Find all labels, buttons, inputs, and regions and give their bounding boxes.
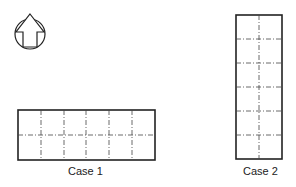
diagram-canvas [0, 0, 296, 187]
case2-label: Case 2 [243, 165, 278, 177]
north-arrow-icon [15, 14, 45, 49]
case2-plan [236, 15, 282, 159]
case1-label: Case 1 [68, 165, 103, 177]
case1-plan [18, 110, 155, 160]
